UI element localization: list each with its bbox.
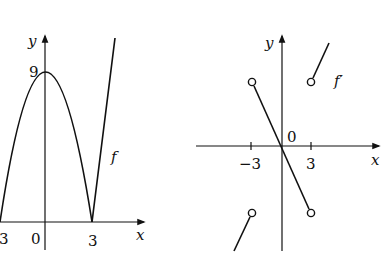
right-xtick-3: 3	[306, 155, 316, 173]
figure: y 9 f -3 0 3 x y f′ 0 −3 3 x	[0, 0, 391, 264]
left-origin-label: 0	[31, 230, 41, 248]
f-curve-rising	[92, 38, 115, 222]
left-x-label: x	[136, 226, 145, 244]
right-origin-label: 0	[287, 128, 297, 146]
right-x-label: x	[371, 151, 380, 169]
open-circle-3-top	[307, 78, 314, 85]
open-circle-neg3-bottom	[248, 209, 255, 216]
fprime-left-ray	[234, 217, 250, 251]
left-graph: y 9 f -3 0 3 x	[0, 32, 145, 250]
right-y-label: y	[264, 34, 274, 52]
left-y-label: y	[27, 32, 37, 50]
left-xtick-neg3: -3	[0, 230, 9, 248]
right-graph: y f′ 0 −3 3 x	[196, 34, 380, 251]
f-curve-parabola	[0, 72, 92, 222]
open-circle-3-bottom	[307, 209, 314, 216]
right-xtick-neg3: −3	[239, 155, 261, 173]
left-xtick-3: 3	[88, 232, 98, 250]
right-function-label: f′	[333, 72, 344, 90]
left-function-label: f	[110, 148, 119, 166]
fprime-right-ray	[313, 43, 329, 78]
open-circle-neg3-top	[248, 78, 255, 85]
left-ytick-9: 9	[29, 63, 39, 81]
